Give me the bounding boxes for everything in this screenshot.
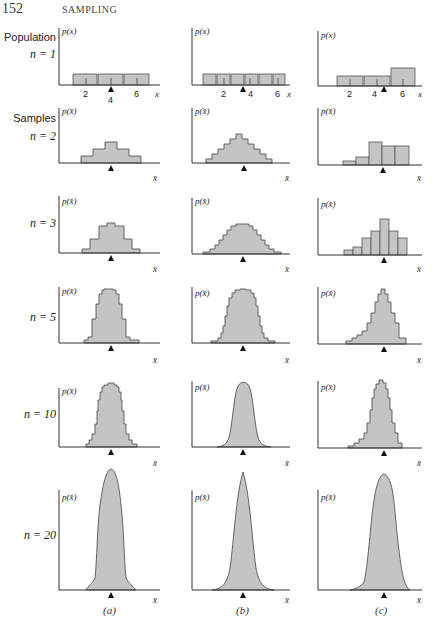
svg-text:2: 2 bbox=[83, 89, 88, 99]
svg-text:x̄: x̄ bbox=[152, 355, 158, 365]
svg-text:p(x): p(x) bbox=[194, 26, 210, 36]
svg-text:x̄: x̄ bbox=[152, 458, 158, 468]
svg-text:p(x̄): p(x̄) bbox=[61, 196, 77, 206]
svg-text:p(x̄): p(x̄) bbox=[61, 386, 77, 396]
svg-text:2: 2 bbox=[347, 89, 352, 99]
svg-text:p(x̄): p(x̄) bbox=[194, 196, 210, 206]
svg-text:x̄: x̄ bbox=[152, 173, 158, 183]
svg-text:p(x̄): p(x̄) bbox=[320, 492, 336, 502]
svg-text:x̄: x̄ bbox=[416, 595, 422, 605]
svg-text:6: 6 bbox=[400, 89, 405, 99]
svg-text:p(x̄): p(x̄) bbox=[320, 199, 336, 209]
svg-text:x̄: x̄ bbox=[152, 595, 158, 605]
svg-text:x̄: x̄ bbox=[416, 355, 422, 365]
panel-a-n5: p(x̄) x̄ bbox=[59, 286, 160, 365]
panel-a-n10: p(x̄) x̄ bbox=[59, 383, 160, 468]
svg-text:p(x̄): p(x̄) bbox=[61, 106, 77, 116]
svg-text:x: x bbox=[417, 89, 422, 99]
panel-c-n20: p(x̄) x̄ bbox=[318, 474, 422, 605]
panel-c-n1: p(x) 2 4 6 x bbox=[318, 30, 422, 99]
svg-text:p(x̄): p(x̄) bbox=[194, 382, 210, 392]
panel-a-n20: p(x̄) x̄ bbox=[59, 469, 160, 605]
svg-text:p(x̄): p(x̄) bbox=[320, 288, 336, 298]
sampling-distribution-figure: p(x) 2 4 6 x p(x) 2 4 6 x p(x) bbox=[0, 0, 437, 627]
svg-text:x̄: x̄ bbox=[284, 355, 290, 365]
panel-b-n20: p(x̄) x̄ bbox=[192, 472, 290, 605]
panel-b-n5: p(x̄) x̄ bbox=[192, 287, 290, 365]
svg-text:p(x̄): p(x̄) bbox=[194, 288, 210, 298]
panel-c-n10: p(x̄) x̄ bbox=[318, 380, 422, 468]
svg-text:x̄: x̄ bbox=[416, 458, 422, 468]
panel-b-n1: p(x) 2 4 6 x bbox=[192, 26, 291, 99]
svg-text:x̄: x̄ bbox=[284, 595, 290, 605]
svg-text:2: 2 bbox=[221, 89, 226, 99]
svg-text:6: 6 bbox=[134, 89, 139, 99]
svg-text:x̄: x̄ bbox=[284, 264, 290, 274]
svg-text:p(x̄): p(x̄) bbox=[61, 286, 77, 296]
svg-text:x̄: x̄ bbox=[284, 173, 290, 183]
svg-text:p(x̄): p(x̄) bbox=[320, 382, 336, 392]
panel-b-n10: p(x̄) x̄ bbox=[192, 381, 290, 468]
panel-c-n2: p(x̄) x̄ bbox=[318, 106, 422, 183]
panel-c-n5: p(x̄) x̄ bbox=[318, 287, 422, 365]
svg-text:x: x bbox=[286, 89, 291, 99]
svg-text:4: 4 bbox=[108, 95, 113, 105]
svg-text:p(x̄): p(x̄) bbox=[194, 492, 210, 502]
svg-text:p(x̄): p(x̄) bbox=[194, 106, 210, 116]
panel-b-n3: p(x̄) x̄ bbox=[192, 196, 290, 274]
y-axis-label: p(x) bbox=[61, 26, 77, 36]
panel-a-n3: p(x̄) x̄ bbox=[59, 196, 160, 274]
svg-text:x̄: x̄ bbox=[284, 458, 290, 468]
svg-text:x: x bbox=[154, 89, 159, 99]
svg-text:6: 6 bbox=[275, 89, 280, 99]
svg-text:4: 4 bbox=[372, 89, 377, 99]
panel-a-n2: p(x̄) x̄ bbox=[59, 106, 160, 183]
svg-text:p(x̄): p(x̄) bbox=[61, 492, 77, 502]
svg-text:x̄: x̄ bbox=[416, 264, 422, 274]
mean-marker bbox=[108, 86, 114, 92]
panel-b-n2: p(x̄) x̄ bbox=[192, 106, 290, 183]
svg-text:p(x̄): p(x̄) bbox=[320, 106, 336, 116]
svg-text:x̄: x̄ bbox=[416, 173, 422, 183]
panel-c-n3: p(x̄) x̄ bbox=[318, 198, 422, 274]
panel-a-n1: p(x) 2 4 6 x bbox=[59, 26, 160, 105]
svg-text:x̄: x̄ bbox=[152, 264, 158, 274]
svg-text:4: 4 bbox=[248, 89, 253, 99]
svg-text:p(x): p(x) bbox=[320, 30, 336, 40]
